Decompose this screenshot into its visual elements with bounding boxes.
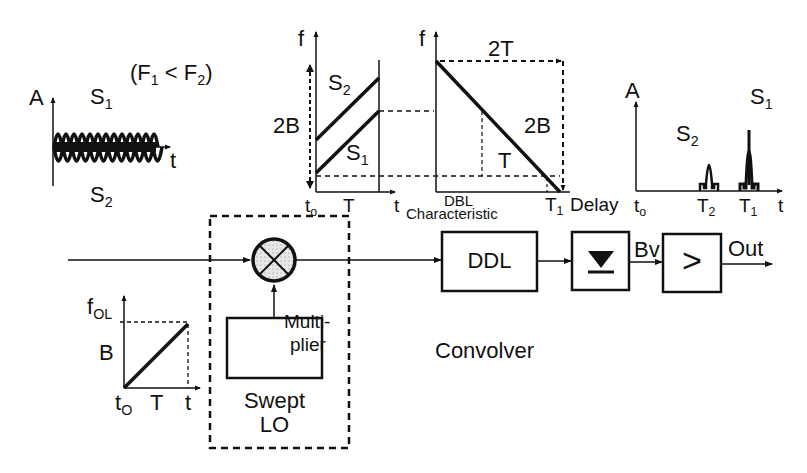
- chirp-s2-label: S2: [328, 72, 351, 97]
- bv-label: Bv: [634, 239, 660, 261]
- chirp-origin-label: to: [305, 196, 317, 219]
- ddl-characteristic-label: Characteristic: [406, 206, 498, 221]
- output-axis-a-label: A: [625, 80, 640, 102]
- chirp-axis-t-label: t: [394, 196, 399, 215]
- chirp-period-label: T: [343, 196, 355, 215]
- swept-lo-label-1: Swept: [239, 390, 310, 412]
- convolver-title: Convolver: [435, 340, 534, 362]
- input-s1-label: S1: [90, 86, 113, 111]
- out-label: Out: [728, 238, 763, 260]
- lo-ramp-plot: [120, 296, 200, 388]
- lo-period-label: T: [150, 392, 163, 414]
- swept-lo-label-2: LO: [239, 414, 310, 436]
- output-s1-label: S1: [750, 86, 773, 111]
- chirp-2b-label: 2B: [273, 115, 300, 137]
- chirp-s1-label: S1: [346, 142, 369, 167]
- lo-axis-t-label: t: [185, 392, 191, 414]
- output-origin-label: to: [634, 196, 646, 219]
- multiplier-label-2: plier: [290, 335, 326, 354]
- ddl-t1-label: T1: [545, 195, 563, 218]
- frequency-condition-label: (F1 < F2): [130, 62, 213, 87]
- lo-b-label: B: [99, 342, 114, 364]
- output-t1-label: T1: [739, 196, 757, 219]
- output-axis-t-label: t: [778, 196, 783, 215]
- ddl-t-label: T: [498, 150, 511, 172]
- ddl-axis-f-label: f: [419, 28, 425, 50]
- output-pulse-plot: [636, 102, 782, 191]
- output-s2-label: S2: [676, 123, 699, 148]
- chirp-plot: [306, 32, 560, 192]
- output-t2-label: T2: [697, 196, 715, 219]
- mixer-icon: [253, 239, 295, 281]
- ddl-2b-label: 2B: [524, 115, 551, 137]
- input-s2-label: S2: [90, 184, 113, 209]
- chirp-axis-f-label: f: [298, 28, 304, 50]
- ddl-delay-label: Delay: [570, 195, 619, 214]
- ddl-block-label: DDL: [442, 250, 537, 272]
- comparator-label: >: [663, 243, 721, 277]
- ddl-2t-label: 2T: [488, 38, 514, 60]
- lo-axis-f-label: fOL: [87, 296, 112, 321]
- input-axis-t-label: t: [170, 150, 176, 172]
- input-axis-a-label: A: [29, 87, 44, 109]
- multiplier-label: Multi-: [284, 312, 330, 331]
- lo-origin-label: tO: [115, 392, 132, 417]
